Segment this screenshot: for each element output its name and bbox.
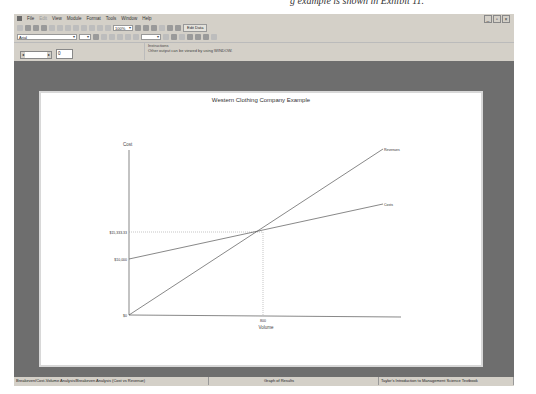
menu-edit[interactable]: Edit: [39, 16, 47, 21]
menu-view[interactable]: View: [52, 16, 62, 21]
align-icon[interactable]: [97, 25, 103, 31]
menu-tools[interactable]: Tools: [106, 16, 117, 21]
status-bar: Breakeven/Cost-Volume Analysis/Breakeven…: [14, 377, 514, 385]
bold-icon[interactable]: [93, 34, 99, 40]
columns-icon[interactable]: [187, 34, 193, 40]
percent-icon[interactable]: [159, 25, 165, 31]
comma-icon[interactable]: [163, 34, 169, 40]
costs-line: [129, 204, 383, 259]
format-toolbar: Arial: [14, 33, 514, 41]
chart-title: Western Clothing Company Example: [212, 97, 311, 103]
align-right-icon[interactable]: [133, 34, 139, 40]
calculator-icon[interactable]: [135, 25, 141, 31]
close-button[interactable]: ×: [502, 15, 510, 23]
table-icon[interactable]: [179, 34, 185, 40]
align-left-icon[interactable]: [117, 34, 123, 40]
menu-module[interactable]: Module: [67, 16, 82, 21]
menu-window[interactable]: Window: [121, 16, 137, 21]
x-axis-label: Volume: [258, 325, 274, 330]
italic-icon[interactable]: [101, 34, 107, 40]
scroll-left-icon[interactable]: ◂: [21, 52, 25, 58]
y-tick-breakeven: $15,333.33: [109, 231, 127, 235]
menu-file[interactable]: File: [27, 16, 34, 21]
y-axis-label: Cost: [123, 142, 133, 147]
chart-panel: Western Clothing Company Example Cost Re…: [39, 91, 483, 367]
status-view-name: Graph of Results: [209, 377, 379, 385]
insert-column-icon[interactable]: [73, 25, 79, 31]
costs-label: Costs: [384, 203, 393, 207]
solve-icon[interactable]: [175, 25, 181, 31]
font-color-icon[interactable]: [195, 34, 201, 40]
status-textbook: Taylor's Introduction to Management Scie…: [379, 377, 514, 385]
background-document-text: g example is shown in Exhibit 11.: [290, 0, 424, 6]
window-controls: _ ▫ ×: [484, 15, 510, 23]
horizontal-scrollbar[interactable]: ◂ ▸: [20, 51, 52, 59]
open-folder-icon[interactable]: [25, 25, 31, 31]
instructions-text: Other output can be viewed by using WIND…: [148, 48, 516, 53]
redo-icon[interactable]: [89, 25, 95, 31]
font-name-select[interactable]: Arial: [17, 34, 77, 40]
new-file-icon[interactable]: [17, 25, 23, 31]
x-axis: [129, 315, 401, 317]
chart-icon[interactable]: [151, 25, 157, 31]
app-icon[interactable]: [17, 16, 22, 21]
align-center-icon[interactable]: [125, 34, 131, 40]
undo-icon[interactable]: [81, 25, 87, 31]
border-icon[interactable]: [211, 34, 217, 40]
instructions-box: Instructions Other output can be viewed …: [144, 43, 516, 60]
insert-row-icon[interactable]: [65, 25, 71, 31]
revenues-label: Revenues: [384, 148, 400, 152]
spinner-value-input[interactable]: 0: [56, 49, 73, 59]
align-2-icon[interactable]: [105, 25, 111, 31]
help-pointer-icon[interactable]: [167, 25, 173, 31]
minimize-button[interactable]: _: [484, 15, 492, 23]
scroll-right-icon[interactable]: ▸: [47, 52, 51, 58]
save-icon[interactable]: [33, 25, 39, 31]
fill-color-icon[interactable]: [203, 34, 209, 40]
zoom-select[interactable]: 100%: [113, 25, 133, 31]
breakeven-chart: Western Clothing Company Example Cost Re…: [41, 93, 481, 365]
menu-help[interactable]: Help: [142, 16, 151, 21]
decimal-select[interactable]: [141, 34, 161, 40]
font-size-select[interactable]: [79, 34, 91, 40]
standard-toolbar: 100% Edit Data: [14, 24, 514, 32]
copy-icon[interactable]: [49, 25, 55, 31]
status-module-path: Breakeven/Cost-Volume Analysis/Breakeven…: [14, 377, 209, 385]
print-icon[interactable]: [41, 25, 47, 31]
restore-button[interactable]: ▫: [493, 15, 501, 23]
app-window: File Edit View Module Format Tools Windo…: [14, 14, 514, 386]
edit-data-button[interactable]: Edit Data: [183, 24, 207, 32]
y-tick-0: $0: [123, 314, 127, 318]
paste-icon[interactable]: [57, 25, 63, 31]
output-area: Western Clothing Company Example Cost Re…: [14, 61, 514, 377]
grid-icon[interactable]: [143, 25, 149, 31]
menu-format[interactable]: Format: [86, 16, 100, 21]
y-tick-10000: $10,000: [114, 258, 127, 262]
menu-bar: File Edit View Module Format Tools Windo…: [14, 14, 514, 23]
x-tick-breakeven: 800: [260, 319, 266, 323]
underline-icon[interactable]: [109, 34, 115, 40]
fill-down-icon[interactable]: [171, 34, 177, 40]
input-panel: ◂ ▸ 0 Instructions Other output can be v…: [14, 42, 514, 61]
